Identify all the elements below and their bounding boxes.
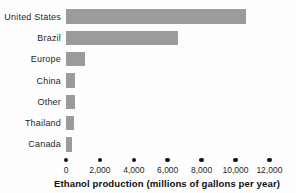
x-axis-title: Ethanol production (millions of gallons …: [54, 178, 280, 189]
category-label: China: [0, 76, 66, 86]
bar-row: Thailand: [0, 112, 296, 133]
axis-tick-label: 8,000: [191, 165, 212, 175]
bar-thailand: [66, 116, 74, 131]
category-label: Europe: [0, 54, 66, 64]
axis-tick-dot: [233, 158, 238, 163]
bar-canada: [66, 137, 72, 152]
axis-tick-label: 4,000: [123, 165, 144, 175]
axis-tick-label: 10,000: [223, 165, 249, 175]
category-label: Other: [0, 97, 66, 107]
bar-other: [66, 95, 75, 110]
category-label: United States: [0, 12, 66, 22]
bar-china: [66, 73, 75, 88]
bar-united-states: [66, 9, 246, 24]
category-label: Brazil: [0, 33, 66, 43]
bar-row: Canada: [0, 134, 296, 155]
axis-tick-dot: [132, 158, 137, 163]
category-label: Thailand: [0, 118, 66, 128]
bar-row: Brazil: [0, 27, 296, 48]
category-label: Canada: [0, 139, 66, 149]
axis-tick-dot: [199, 158, 204, 163]
axis-tick-label: 2,000: [89, 165, 110, 175]
bar-row: China: [0, 70, 296, 91]
bar-europe: [66, 52, 85, 67]
axis-tick-label: 12,000: [256, 165, 282, 175]
bar-rows: United StatesBrazilEuropeChinaOtherThail…: [0, 6, 296, 155]
axis-tick-label: 0: [64, 165, 69, 175]
axis-tick-dot: [267, 158, 272, 163]
axis-tick-label: 6,000: [157, 165, 178, 175]
bar-row: Europe: [0, 49, 296, 70]
axis-tick-dot: [64, 158, 69, 163]
ethanol-production-bar-chart: United StatesBrazilEuropeChinaOtherThail…: [0, 0, 296, 193]
bar-row: United States: [0, 6, 296, 27]
axis-tick-dot: [165, 158, 170, 163]
bar-brazil: [66, 31, 178, 46]
bar-row: Other: [0, 91, 296, 112]
axis-tick-dot: [98, 158, 103, 163]
